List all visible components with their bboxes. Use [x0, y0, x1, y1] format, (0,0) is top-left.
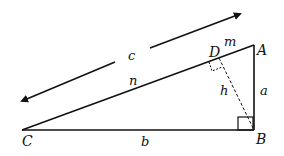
- label-m: m: [224, 34, 236, 49]
- triangle-diagram: c n m D A a h b B C: [0, 0, 284, 156]
- label-c: c: [128, 48, 136, 63]
- label-n: n: [129, 73, 137, 88]
- label-a: a: [260, 83, 268, 98]
- arrow-left-half: [22, 62, 115, 101]
- right-angle-marker-D: [209, 62, 222, 71]
- label-h: h: [220, 83, 228, 98]
- label-A: A: [255, 42, 267, 58]
- label-C: C: [22, 133, 33, 149]
- label-b: b: [141, 134, 149, 149]
- label-D: D: [208, 44, 220, 60]
- label-B: B: [255, 131, 266, 147]
